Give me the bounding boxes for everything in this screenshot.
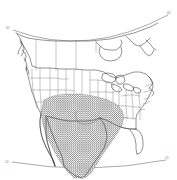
label-top-left: 60 — [6, 26, 10, 30]
map-figure: 60 60 20 20 — [0, 0, 177, 180]
label-bottom-left: 20 — [5, 160, 9, 164]
label-top-right: 60 — [167, 11, 171, 15]
label-bottom-right: 20 — [165, 156, 169, 160]
